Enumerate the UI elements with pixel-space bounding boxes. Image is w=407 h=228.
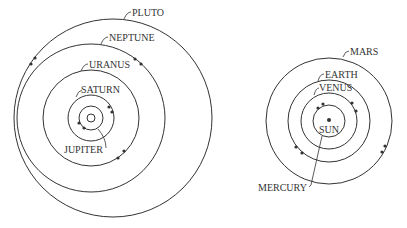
neptune-dot-2	[139, 62, 142, 65]
jupiter-dot-2	[82, 126, 85, 129]
venus-dot-2	[354, 109, 357, 112]
sun-marker-outer	[87, 114, 95, 122]
jupiter-dot	[77, 121, 80, 124]
outer-system: PLUTO NEPTUNE URANUS SATURN JUPITER	[14, 7, 212, 217]
mars-dot-2	[380, 150, 383, 153]
neptune-label: NEPTUNE	[109, 32, 155, 43]
pluto-label: PLUTO	[132, 7, 164, 18]
solar-system-orbits-diagram: PLUTO NEPTUNE URANUS SATURN JUPITER SUN …	[0, 0, 407, 228]
pluto-orbit	[14, 19, 212, 217]
uranus-dot-2	[122, 149, 125, 152]
venus-dot	[350, 101, 353, 104]
mars-dot	[383, 144, 386, 147]
uranus-label: URANUS	[89, 59, 130, 70]
venus-label: VENUS	[319, 82, 352, 93]
mercury-dot	[316, 106, 319, 109]
mars-label: MARS	[350, 46, 378, 57]
jupiter-label: JUPITER	[64, 144, 103, 155]
neptune-leader	[101, 37, 108, 44]
earth-dot	[294, 145, 297, 148]
mars-leader	[343, 51, 349, 57]
pluto-leader	[124, 12, 131, 19]
inner-system: SUN MARS EARTH VENUS MERCURY	[258, 46, 392, 193]
saturn-label: SATURN	[81, 84, 120, 95]
sun-dot	[327, 118, 331, 122]
uranus-dot	[116, 156, 119, 159]
saturn-dot-2	[110, 110, 113, 113]
earth-label: EARTH	[325, 69, 358, 80]
mercury-label: MERCURY	[258, 182, 307, 193]
saturn-orbit	[68, 95, 114, 141]
jupiter-orbit	[79, 106, 103, 130]
saturn-dot	[107, 105, 110, 108]
mercury-dot-2	[321, 102, 324, 105]
pluto-dot	[33, 56, 36, 59]
pluto-dot-2	[29, 62, 32, 65]
neptune-dot	[133, 57, 136, 60]
sun-label: SUN	[319, 124, 339, 135]
earth-dot-2	[300, 151, 303, 154]
